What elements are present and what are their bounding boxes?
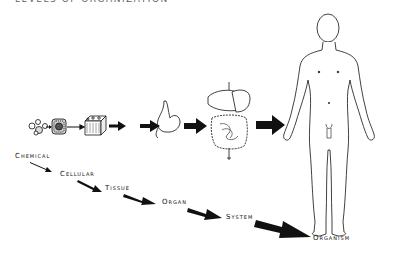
molecule-icon bbox=[29, 120, 48, 136]
tissue-icon bbox=[85, 116, 106, 135]
level-label-cellular: Cellular bbox=[60, 170, 95, 178]
digestive-system-icon bbox=[208, 82, 250, 160]
stomach-icon bbox=[156, 101, 180, 138]
level-label-organ: Organ bbox=[162, 198, 187, 206]
level-label-tissue: Tissue bbox=[105, 184, 130, 192]
human-body-icon bbox=[284, 14, 375, 236]
level-label-system: System bbox=[226, 213, 253, 221]
diagram-canvas bbox=[0, 0, 394, 257]
level-label-chemical: Chemical bbox=[15, 152, 50, 160]
cell-icon bbox=[52, 119, 66, 134]
level-label-organism: Organism bbox=[313, 234, 350, 242]
